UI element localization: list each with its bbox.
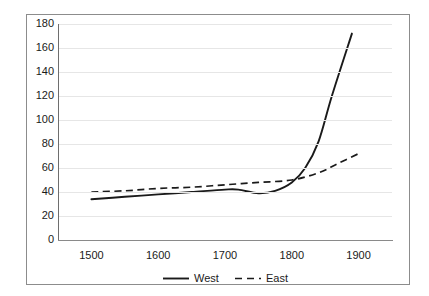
legend-swatch-east: [235, 274, 261, 283]
gridline: [58, 24, 392, 25]
x-axis-tick-label: 1700: [195, 249, 255, 261]
x-axis-tick-label: 1900: [329, 249, 389, 261]
gridline: [58, 192, 392, 193]
x-axis-line: [58, 240, 393, 241]
legend-item-west: West: [163, 272, 219, 284]
y-axis-tick-label: 160: [10, 41, 54, 53]
y-axis-tick-label: 0: [10, 233, 54, 245]
gridline: [58, 120, 392, 121]
legend-label-east: East: [266, 272, 288, 284]
x-axis-tick-labels: 15001600170018001900: [58, 249, 393, 265]
y-axis-tick-label: 20: [10, 209, 54, 221]
x-axis-tick-label: 1800: [262, 249, 322, 261]
y-axis-tick-label: 120: [10, 89, 54, 101]
y-axis-tick-label: 80: [10, 137, 54, 149]
y-axis-tick-label: 140: [10, 65, 54, 77]
plot-area: [58, 24, 392, 240]
gridline: [58, 72, 392, 73]
y-axis-line: [58, 24, 59, 241]
gridline: [58, 48, 392, 49]
series-line-east: [91, 154, 358, 192]
gridline: [58, 216, 392, 217]
x-axis-tick-label: 1600: [128, 249, 188, 261]
y-axis-tick-label: 100: [10, 113, 54, 125]
legend-item-east: East: [235, 272, 288, 284]
chart-legend: West East: [58, 270, 393, 286]
gridline: [58, 96, 392, 97]
gridline: [58, 144, 392, 145]
x-axis-tick-label: 1500: [61, 249, 121, 261]
series-layer: [58, 24, 392, 240]
y-axis-tick-label: 60: [10, 161, 54, 173]
y-axis-tick-labels: 180160140120100806040200: [8, 24, 54, 240]
line-chart: 180160140120100806040200 150016001700180…: [0, 0, 429, 296]
y-axis-tick-label: 40: [10, 185, 54, 197]
legend-label-west: West: [194, 272, 219, 284]
legend-swatch-west: [163, 274, 189, 283]
y-axis-tick-label: 180: [10, 17, 54, 29]
gridline: [58, 168, 392, 169]
